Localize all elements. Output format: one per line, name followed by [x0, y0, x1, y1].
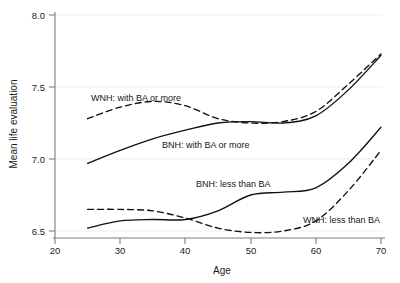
y-axis-title: Mean life evaluation [8, 80, 19, 169]
x-axis: 20 30 40 50 60 70 Age [50, 238, 387, 276]
series-label-bnh-with-ba: BNH: with BA or more [162, 140, 250, 150]
x-tick-label-20: 20 [50, 245, 61, 256]
x-tick-label-60: 60 [311, 245, 322, 256]
series-label-bnh-less-ba: BNH: less than BA [196, 179, 271, 189]
series-line-wnh-with-ba [88, 54, 381, 123]
y-tick-label-7-5: 7.5 [32, 82, 45, 93]
x-tick-label-30: 30 [115, 245, 126, 256]
y-tick-label-8-0: 8.0 [32, 10, 45, 21]
y-axis: 8.0 7.5 7.0 6.5 Mean life evaluation [8, 10, 55, 239]
x-tick-label-50: 50 [246, 245, 257, 256]
x-axis-title: Age [213, 265, 231, 276]
y-tick-label-6-5: 6.5 [32, 226, 45, 237]
x-tick-label-70: 70 [376, 245, 387, 256]
y-tick-label-7-0: 7.0 [32, 154, 45, 165]
line-chart: 8.0 7.5 7.0 6.5 Mean life evaluation 20 … [0, 0, 400, 283]
x-tick-label-40: 40 [180, 245, 191, 256]
series-label-wnh-with-ba: WNH: with BA or more [91, 93, 181, 103]
chart-container: 8.0 7.5 7.0 6.5 Mean life evaluation 20 … [0, 0, 400, 283]
series-label-wnh-less-ba: WNH: less than BA [303, 215, 380, 225]
